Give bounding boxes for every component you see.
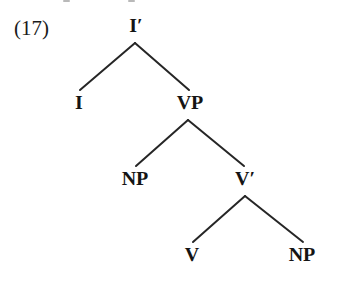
tree-branch <box>136 120 188 166</box>
tree-node-vbar: V′ <box>235 169 255 189</box>
tree-branch <box>80 43 135 90</box>
tree-node-ibar: I′ <box>129 16 142 36</box>
tree-branch <box>188 120 244 166</box>
tree-branch <box>193 196 245 242</box>
tree-branch <box>245 196 303 242</box>
tree-node-v: V <box>185 245 199 265</box>
tree-node-np1: NP <box>122 169 149 189</box>
tree-node-vp: VP <box>177 93 204 113</box>
tree-edges <box>0 0 338 282</box>
syntax-tree-figure: (17) I′IVPNPV′VNP <box>0 0 338 282</box>
tree-branch <box>135 43 189 90</box>
tree-node-np2: NP <box>289 245 316 265</box>
tree-node-i: I <box>75 93 83 113</box>
